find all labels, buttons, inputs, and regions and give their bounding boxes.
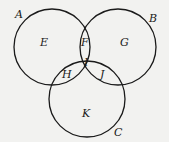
circle-label-b: B <box>148 12 157 25</box>
region-label-f: F <box>80 36 89 49</box>
region-label-k: K <box>81 107 91 120</box>
circle-label-a: A <box>14 8 23 21</box>
circle-a <box>14 9 90 85</box>
circle-label-c: C <box>114 126 123 139</box>
circle-b <box>80 9 156 85</box>
region-label-g: G <box>120 36 129 49</box>
region-label-i: I <box>83 56 89 69</box>
region-label-j: J <box>98 68 105 81</box>
region-label-e: E <box>39 36 48 49</box>
venn-diagram: A B C E F G H I J K <box>0 0 169 142</box>
region-label-h: H <box>61 68 72 81</box>
